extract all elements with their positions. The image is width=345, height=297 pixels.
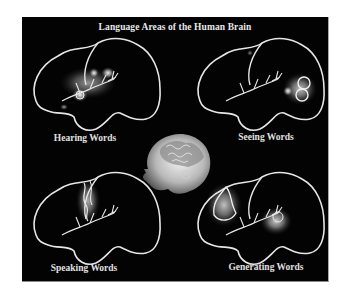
label-hearing-words: Hearing Words: [54, 133, 116, 143]
brain-speaking: [34, 173, 160, 265]
brain-hearing: [34, 39, 160, 131]
label-seeing-words: Seeing Words: [238, 132, 294, 142]
figure-panel: Language Areas of the Human Brain: [22, 17, 329, 282]
center-head-render: [143, 134, 210, 194]
label-generating-words: Generating Words: [228, 262, 303, 272]
brain-diagrams: [22, 17, 328, 281]
brain-generating: [198, 173, 324, 265]
label-speaking-words: Speaking Words: [51, 263, 118, 273]
brain-seeing: [198, 39, 324, 131]
